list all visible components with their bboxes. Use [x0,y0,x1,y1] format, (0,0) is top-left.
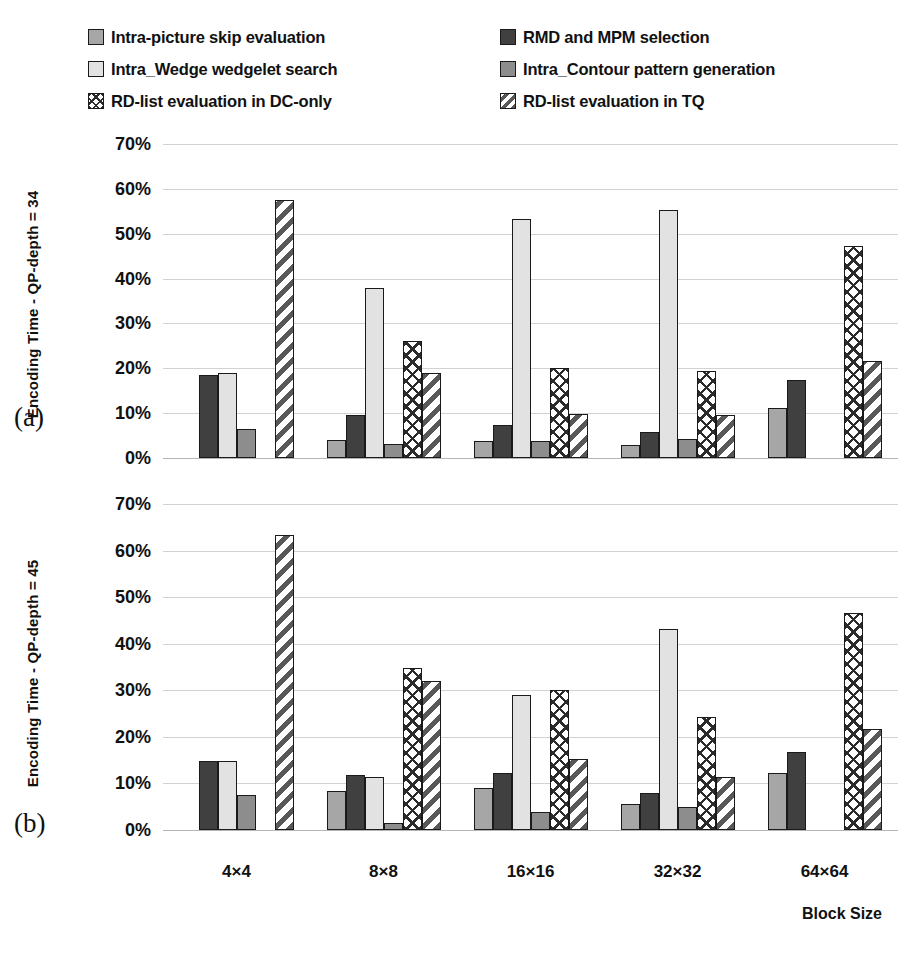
bar-a-8×8-contour [384,444,403,458]
y-axis-tick-b-60: 60% [115,540,151,561]
plot-area-b: 0%10%20%30%40%50%60%70% [163,504,898,830]
bar-b-16×16-skip [474,788,493,830]
legend-label-tq: RD-list evaluation in TQ [523,93,704,110]
bar-b-16×16-tq [569,759,588,830]
legend-item-tq: RD-list evaluation in TQ [500,88,775,114]
bar-b-8×8-rmd [346,775,365,830]
bar-group-b-8×8 [310,504,457,830]
legend-swatch-dc-icon [88,93,104,109]
bar-a-16×16-contour [531,441,550,458]
legend-column-right: RMD and MPM selection Intra_Contour patt… [500,24,775,120]
plot-area-a: 0%10%20%30%40%50%60%70% [163,144,898,458]
bar-a-4×4-contour [237,429,256,458]
x-axis-title: Block Size [802,905,882,923]
bar-b-16×16-contour [531,812,550,830]
bar-b-32×32-dc [697,717,716,830]
bar-b-32×32-skip [621,804,640,830]
x-axis-tick-3: 32×32 [604,862,751,888]
bar-a-32×32-tq [716,415,735,458]
legend-label-dc: RD-list evaluation in DC-only [111,93,332,110]
bar-b-64×64-tq [863,729,882,830]
y-axis-title-b: Encoding Time - QP-depth = 45 [18,488,48,858]
bar-b-16×16-rmd [493,773,512,830]
legend-label-skip: Intra-picture skip evaluation [111,29,325,46]
bar-b-4×4-rmd [199,761,218,830]
chart-panel-b: Encoding Time - QP-depth = 45 0%10%20%30… [0,488,920,858]
y-axis-tick-a-60: 60% [115,178,151,199]
y-axis-tick-b-0: 0% [125,820,151,841]
legend-swatch-rmd-icon [500,29,516,45]
bar-a-32×32-dc [697,371,716,458]
y-axis-tick-b-30: 30% [115,680,151,701]
bar-groups-b [163,504,898,830]
bar-b-8×8-tq [422,681,441,830]
legend-column-left: Intra-picture skip evaluation Intra_Wedg… [88,24,488,120]
bar-a-8×8-skip [327,440,346,458]
y-axis-tick-a-10: 10% [115,403,151,424]
x-axis-tick-0: 4×4 [163,862,310,888]
bar-b-32×32-rmd [640,793,659,830]
bar-a-16×16-dc [550,368,569,458]
x-axis-tick-labels: 4×48×816×1632×3264×64 [163,862,898,888]
y-axis-tick-b-70: 70% [115,494,151,515]
bar-b-4×4-tq [275,535,294,830]
legend-swatch-contour-icon [500,61,516,77]
y-axis-tick-b-10: 10% [115,773,151,794]
bar-a-32×32-wedge [659,210,678,459]
bar-b-64×64-dc [844,613,863,830]
chart-legend: Intra-picture skip evaluation Intra_Wedg… [0,24,920,120]
bar-b-32×32-tq [716,777,735,830]
bar-b-8×8-wedge [365,777,384,830]
gridline-a-0 [163,458,898,459]
bar-a-8×8-wedge [365,288,384,458]
panel-label-b: (b) [14,808,45,839]
bar-a-64×64-tq [863,361,882,458]
bar-group-b-64×64 [751,504,898,830]
bar-a-32×32-contour [678,439,697,458]
y-axis-title-b-text: Encoding Time - QP-depth = 45 [25,559,42,787]
bar-b-4×4-contour [237,795,256,830]
bar-a-32×32-rmd [640,432,659,458]
bar-b-8×8-skip [327,791,346,830]
bar-a-64×64-dc [844,246,863,458]
bar-a-64×64-skip [768,408,787,458]
bar-group-a-16×16 [457,144,604,458]
bar-a-64×64-rmd [787,380,806,459]
gridline-b-0 [163,830,898,831]
bar-b-4×4-wedge [218,761,237,830]
y-axis-tick-a-30: 30% [115,313,151,334]
bar-b-64×64-rmd [787,752,806,830]
bar-a-8×8-dc [403,341,422,458]
bar-a-16×16-tq [569,414,588,458]
bar-a-8×8-rmd [346,415,365,459]
bar-group-b-32×32 [604,504,751,830]
panel-label-a: (a) [14,402,44,433]
bar-b-16×16-dc [550,690,569,830]
legend-item-contour: Intra_Contour pattern generation [500,56,775,82]
y-axis-tick-b-50: 50% [115,587,151,608]
y-axis-tick-a-40: 40% [115,268,151,289]
y-axis-title-a-text: Encoding Time - QP-depth = 34 [25,190,42,418]
bar-a-16×16-wedge [512,219,531,458]
legend-item-dc: RD-list evaluation in DC-only [88,88,488,114]
bar-group-a-32×32 [604,144,751,458]
bar-group-a-8×8 [310,144,457,458]
x-axis-tick-1: 8×8 [310,862,457,888]
bar-a-16×16-rmd [493,425,512,458]
legend-swatch-wedge-icon [88,61,104,77]
y-axis-tick-a-50: 50% [115,223,151,244]
x-axis-tick-2: 16×16 [457,862,604,888]
bar-group-a-4×4 [163,144,310,458]
bar-group-a-64×64 [751,144,898,458]
bar-b-64×64-skip [768,773,787,830]
y-axis-tick-a-70: 70% [115,134,151,155]
legend-label-wedge: Intra_Wedge wedgelet search [111,61,337,78]
y-axis-tick-a-20: 20% [115,358,151,379]
legend-item-skip: Intra-picture skip evaluation [88,24,488,50]
bar-a-4×4-wedge [218,373,237,458]
bar-b-8×8-dc [403,668,422,830]
legend-swatch-skip-icon [88,29,104,45]
bar-a-4×4-rmd [199,375,218,458]
y-axis-tick-b-40: 40% [115,633,151,654]
legend-item-rmd: RMD and MPM selection [500,24,775,50]
